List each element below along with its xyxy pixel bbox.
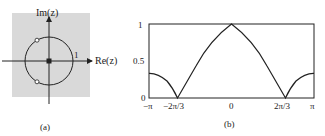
pole-zero-plot: Im(z) Re(z) 1 (a) [2, 7, 117, 132]
re-axis-label: Re(z) [95, 55, 117, 67]
x-tick-neg-2pi-3: −2π/3 [163, 101, 185, 111]
magnitude-curve [149, 24, 314, 98]
caption-a: (a) [40, 122, 50, 132]
y-tick-1: 1 [138, 20, 143, 30]
x-tick-2pi-3: 2π/3 [274, 101, 291, 111]
figure: Im(z) Re(z) 1 (a) 1 0.5 0 −π −2π/3 0 2π/… [0, 0, 325, 136]
x-tick-0: 0 [229, 101, 234, 111]
im-axis-label: Im(z) [36, 7, 58, 19]
x-tick-neg-pi: −π [143, 101, 153, 111]
x-tick-pi: π [310, 101, 315, 111]
radius-label: 1 [74, 50, 79, 60]
magnitude-plot: 1 0.5 0 −π −2π/3 0 2π/3 π (b) [133, 20, 315, 129]
zero-marker-upper [35, 38, 39, 42]
zero-marker-lower [35, 80, 39, 84]
y-tick-0-5: 0.5 [133, 56, 145, 66]
plot-frame [149, 24, 314, 98]
caption-b: (b) [224, 119, 235, 129]
pole-marker-origin [47, 59, 52, 64]
